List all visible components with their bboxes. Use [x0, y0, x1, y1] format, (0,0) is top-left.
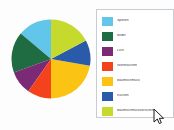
legend-item-baumschmuckvorschrift[interactable]: Baumschmuckvorschrift	[102, 104, 170, 118]
legend-swatch-baumschmuckvorschrift	[102, 107, 113, 116]
pie-chart-svg	[11, 18, 91, 100]
pie-chart[interactable]	[11, 18, 91, 100]
legend-label-licht: Licht	[117, 49, 124, 52]
legend-item-baumschmuck[interactable]: Baumschmuck	[102, 74, 170, 88]
legend-label-baumschmuck: Baumschmuck	[117, 79, 140, 82]
legend-label-baumschmuckvorschrift: Baumschmuckvorschrift	[117, 109, 154, 112]
pie-slice-group	[11, 20, 90, 99]
legend-swatch-spielen	[102, 17, 113, 26]
legend-swatch-licht	[102, 47, 113, 56]
legend-label-spielen: Spielen	[117, 19, 129, 22]
legend-swatch-bilder	[102, 32, 113, 41]
legend-item-weihnachten[interactable]: Weihnachten	[102, 59, 170, 73]
legend-item-kuchen[interactable]: Kuchen	[102, 89, 170, 103]
pie-chart-screen: Spielen Bilder Licht Weihnachten Baumsch…	[0, 0, 174, 130]
legend-swatch-weihnachten	[102, 62, 113, 71]
legend-label-weihnachten: Weihnachten	[117, 64, 137, 67]
legend-item-licht[interactable]: Licht	[102, 44, 170, 58]
legend-label-kuchen: Kuchen	[117, 94, 129, 97]
legend-swatch-kuchen	[102, 92, 113, 101]
legend-swatch-baumschmuck	[102, 77, 113, 86]
legend-item-bilder[interactable]: Bilder	[102, 29, 170, 43]
legend-item-spielen[interactable]: Spielen	[102, 14, 170, 28]
pie-slice[interactable]	[51, 59, 90, 99]
legend-label-bilder: Bilder	[117, 34, 126, 37]
chart-legend: Spielen Bilder Licht Weihnachten Baumsch…	[96, 9, 174, 118]
